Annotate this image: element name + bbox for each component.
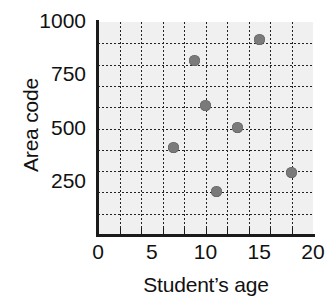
x-axis-line <box>96 234 315 237</box>
x-axis-tick <box>249 228 250 234</box>
x-tick-label: 5 <box>130 240 174 264</box>
scatter-chart: Area code 05101520 2505007501000 Student… <box>0 0 328 307</box>
y-axis-line <box>96 20 99 237</box>
x-axis-title: Student’s age <box>98 273 314 297</box>
x-axis-tick <box>184 228 185 234</box>
gridline-horizontal <box>98 171 313 172</box>
y-tick-label: 250 <box>0 169 86 193</box>
data-point <box>286 167 297 178</box>
x-tick-label: 10 <box>184 240 228 264</box>
x-axis-tick <box>206 228 207 234</box>
gridline-horizontal <box>98 129 313 130</box>
y-tick-label: 1000 <box>0 9 86 33</box>
gridline-horizontal <box>98 214 313 215</box>
x-tick-label: 0 <box>76 240 120 264</box>
gridline-horizontal <box>98 43 313 44</box>
gridline-horizontal <box>98 65 313 66</box>
gridline-horizontal <box>98 150 313 151</box>
gridline-horizontal <box>98 86 313 87</box>
data-point <box>211 186 222 197</box>
gridline-horizontal <box>98 192 313 193</box>
x-axis-tick <box>120 228 121 234</box>
x-axis-tick <box>227 228 228 234</box>
x-axis-tick <box>270 228 271 234</box>
y-tick-label: 750 <box>0 62 86 86</box>
x-axis-tick <box>292 228 293 234</box>
x-axis-tick <box>141 228 142 234</box>
data-point <box>254 34 265 45</box>
x-tick-label: 15 <box>237 240 281 264</box>
x-axis-tick <box>163 228 164 234</box>
data-point <box>200 100 211 111</box>
y-tick-label: 500 <box>0 116 86 140</box>
data-point <box>189 55 200 66</box>
x-tick-label: 20 <box>291 240 328 264</box>
data-point <box>168 142 179 153</box>
